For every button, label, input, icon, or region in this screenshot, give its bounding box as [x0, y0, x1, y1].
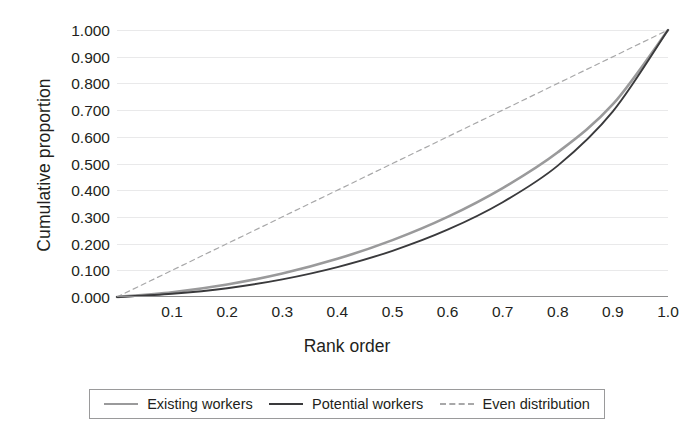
legend-label: Even distribution: [483, 396, 590, 412]
y-axis-tick-label: 0.100: [44, 263, 110, 279]
legend-item[interactable]: Potential workers: [269, 396, 423, 412]
legend-item[interactable]: Existing workers: [104, 396, 253, 412]
x-axis-tick-label: 0.3: [260, 303, 304, 320]
y-axis-tick-label: 0.700: [44, 103, 110, 119]
x-axis-tick-label: 0.7: [481, 303, 525, 320]
x-axis-tick-label: 1.0: [646, 303, 690, 320]
x-axis-line: [117, 296, 668, 297]
x-axis-tick-labels: 0.10.20.30.40.50.60.70.80.91.0: [0, 303, 694, 325]
legend-label: Potential workers: [312, 396, 423, 412]
y-axis-tick-labels: 0.0000.1000.2000.3000.4000.5000.6000.700…: [44, 0, 110, 433]
legend-item[interactable]: Even distribution: [440, 396, 590, 412]
y-axis-tick-label: 0.400: [44, 183, 110, 199]
x-axis-tick-label: 0.2: [205, 303, 249, 320]
y-axis-tick-label: 0.500: [44, 157, 110, 173]
y-axis-tick-label: 0.800: [44, 76, 110, 92]
legend-label: Existing workers: [147, 396, 253, 412]
lorenz-curve-chart: Cumulative proportion 0.0000.1000.2000.3…: [0, 0, 694, 433]
legend-swatch-icon: [104, 403, 138, 405]
chart-legend: Existing workersPotential workersEven di…: [89, 389, 605, 419]
x-axis-tick-label: 0.6: [426, 303, 470, 320]
series-lines: [117, 30, 668, 297]
x-axis-tick-label: 0.9: [591, 303, 635, 320]
x-axis-tick-label: 0.4: [315, 303, 359, 320]
y-axis-tick-label: 0.900: [44, 50, 110, 66]
y-axis-tick-label: 0.300: [44, 210, 110, 226]
legend-swatch-icon: [269, 403, 303, 405]
y-axis-tick-label: 0.600: [44, 130, 110, 146]
y-axis-tick-label: 0.200: [44, 237, 110, 253]
legend-swatch-icon: [440, 403, 474, 405]
y-axis-tick-label: 1.000: [44, 23, 110, 39]
x-axis-tick-label: 0.1: [150, 303, 194, 320]
series-line: [117, 30, 668, 297]
x-axis-tick-label: 0.5: [371, 303, 415, 320]
plot-area: [117, 30, 668, 297]
x-axis-title: Rank order: [0, 336, 694, 357]
x-axis-tick-label: 0.8: [536, 303, 580, 320]
